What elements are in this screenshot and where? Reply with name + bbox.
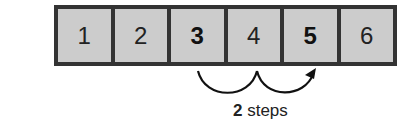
steps-text: steps: [242, 101, 287, 120]
jump-arrows: [0, 0, 415, 129]
jump-arc-2: [257, 71, 313, 92]
arrowhead-icon: [305, 68, 316, 79]
steps-caption: 2 steps: [233, 101, 288, 121]
jump-arc-1: [198, 71, 257, 93]
